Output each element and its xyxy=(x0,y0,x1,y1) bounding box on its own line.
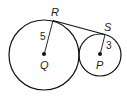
center-point-q xyxy=(42,52,46,56)
radius-segment-ps xyxy=(100,35,105,56)
label-radius-3: 3 xyxy=(106,40,112,51)
label-r: R xyxy=(51,6,59,18)
center-point-p xyxy=(98,52,102,56)
tangent-circles-diagram: R S Q P 5 3 xyxy=(0,0,127,96)
label-p: P xyxy=(96,59,104,71)
label-radius-5: 5 xyxy=(40,31,46,42)
label-s: S xyxy=(104,21,112,33)
label-q: Q xyxy=(40,59,49,71)
tangent-segment-rs xyxy=(53,21,105,35)
